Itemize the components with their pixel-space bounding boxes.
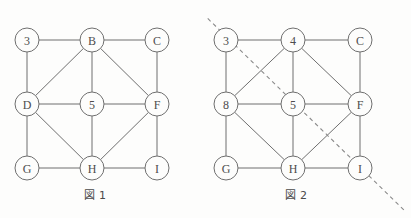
graph-edge bbox=[36, 112, 84, 159]
node-label: G bbox=[222, 162, 231, 176]
node-label: C bbox=[356, 34, 364, 48]
graph-edge bbox=[101, 112, 149, 159]
graph-node: G bbox=[15, 156, 39, 180]
graph-node: 5 bbox=[281, 92, 305, 116]
graph-edge bbox=[36, 48, 84, 95]
graph-node: 8 bbox=[214, 92, 238, 116]
node-label: H bbox=[289, 162, 298, 176]
graph-node: B bbox=[80, 28, 104, 52]
figure-1-caption: 図 1 bbox=[0, 186, 190, 202]
graph-node: I bbox=[145, 156, 169, 180]
figure-2-panel: 34C85FGHI 図 2 bbox=[206, 0, 411, 218]
node-label: F bbox=[154, 98, 161, 112]
graph-node: G bbox=[214, 156, 238, 180]
graph-edge bbox=[235, 112, 285, 159]
node-label: G bbox=[23, 162, 32, 176]
node-label: 3 bbox=[223, 34, 229, 48]
node-label: 5 bbox=[89, 98, 95, 112]
graph-edge bbox=[302, 48, 352, 95]
figure-1-graph: 3BCD5FGHI bbox=[0, 0, 206, 185]
node-layer: 3BCD5FGHI bbox=[15, 28, 169, 180]
figure-2-caption: 図 2 bbox=[206, 186, 386, 202]
graph-node: 3 bbox=[15, 28, 39, 52]
graph-node: D bbox=[15, 92, 39, 116]
graph-node: C bbox=[348, 28, 372, 52]
node-label: D bbox=[23, 98, 32, 112]
graph-node: H bbox=[281, 156, 305, 180]
graph-edge bbox=[101, 48, 149, 95]
graph-node: 4 bbox=[281, 28, 305, 52]
figure-1-panel: 3BCD5FGHI 図 1 bbox=[0, 0, 206, 218]
graph-node: 5 bbox=[80, 92, 104, 116]
node-layer: 34C85FGHI bbox=[214, 28, 372, 180]
node-label: 3 bbox=[24, 34, 30, 48]
node-label: I bbox=[155, 162, 159, 176]
graph-edge bbox=[302, 112, 352, 159]
figure-canvas: 3BCD5FGHI 図 1 34C85FGHI 図 2 bbox=[0, 0, 411, 218]
node-label: 8 bbox=[223, 98, 229, 112]
node-label: F bbox=[357, 98, 364, 112]
graph-node: I bbox=[348, 156, 372, 180]
node-label: 4 bbox=[290, 34, 296, 48]
graph-node: F bbox=[145, 92, 169, 116]
node-label: 5 bbox=[290, 98, 296, 112]
graph-node: 3 bbox=[214, 28, 238, 52]
node-label: C bbox=[153, 34, 161, 48]
node-label: I bbox=[358, 162, 362, 176]
graph-node: H bbox=[80, 156, 104, 180]
node-label: H bbox=[88, 162, 97, 176]
graph-node: C bbox=[145, 28, 169, 52]
graph-node: F bbox=[348, 92, 372, 116]
graph-edge bbox=[235, 48, 285, 95]
node-label: B bbox=[88, 34, 96, 48]
